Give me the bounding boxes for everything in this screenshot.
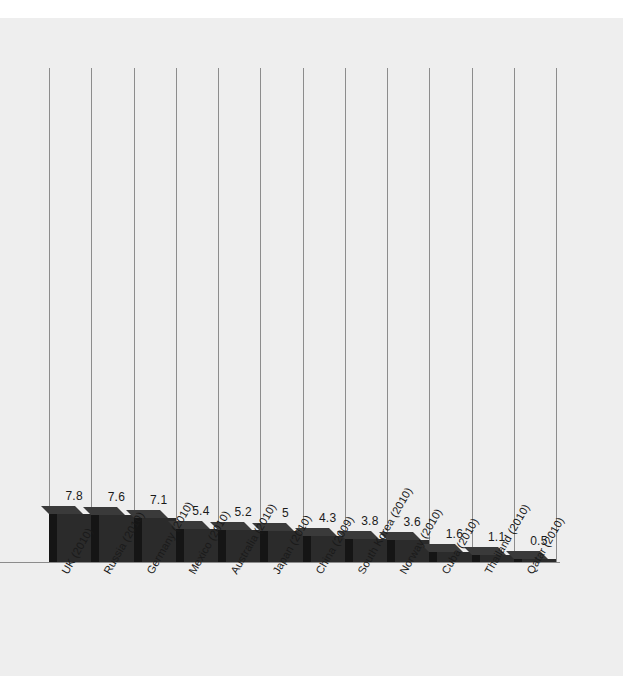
- category-label: Mexico (2010): [186, 509, 232, 576]
- category-label: Cuba (2010): [439, 516, 481, 576]
- category-label: Norway (2010): [397, 506, 444, 576]
- category-label: Qatar (2010): [524, 515, 566, 576]
- category-label: Japan (2010): [270, 513, 313, 576]
- category-labels-layer: UK (2010)Russia (2010)Germany (2010)Mexi…: [0, 0, 623, 694]
- category-label: Thailand (2010): [482, 502, 532, 576]
- chart-container: 7.87.67.15.45.254.33.83.61.61.10.5 UK (2…: [0, 0, 623, 694]
- category-label: China (2009): [313, 514, 356, 576]
- category-label: Australia (2010): [228, 501, 278, 576]
- category-label: UK (2010): [59, 526, 95, 576]
- category-label: Russia (2010): [101, 510, 146, 576]
- category-label: Germany (2010): [144, 499, 195, 576]
